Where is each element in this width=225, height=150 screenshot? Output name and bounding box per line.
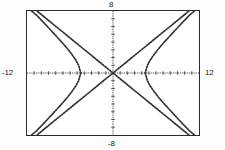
plot-viewport-frame <box>26 10 200 136</box>
graphing-calculator-screen: -12 12 8 -8 <box>0 0 225 150</box>
y-max-label: 8 <box>109 1 113 9</box>
x-max-label: 12 <box>205 69 214 77</box>
y-min-label: -8 <box>108 140 115 148</box>
x-min-label: -12 <box>2 69 13 77</box>
plot-canvas <box>27 11 199 135</box>
